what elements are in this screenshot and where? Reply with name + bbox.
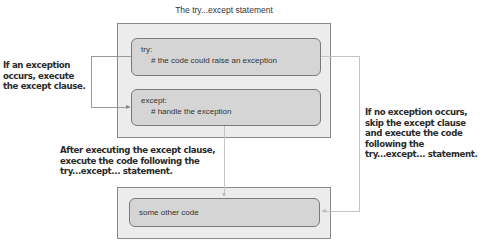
except-keyword: except: — [141, 96, 167, 106]
other-code-text: some other code — [139, 208, 199, 218]
no-exception-line-bottom — [325, 211, 360, 212]
after-except-arrow-icon — [222, 193, 226, 197]
exception-path-arrow-icon — [126, 105, 131, 109]
except-comment: # handle the exception — [151, 107, 232, 117]
other-code-block: some other code — [129, 198, 320, 227]
note-exception-occurs: If an exception occurs, execute the exce… — [3, 60, 85, 92]
try-comment: # the code could raise an exception — [151, 56, 277, 66]
note-no-exception: If no exception occurs, skip the except … — [365, 107, 477, 160]
exception-path-line-bottom — [91, 107, 127, 108]
try-block: try: # the code could raise an exception — [131, 38, 321, 76]
note-after-except: After executing the except clause, execu… — [60, 145, 215, 177]
exception-path-line-top — [91, 56, 131, 57]
after-except-line — [224, 126, 225, 196]
try-keyword: try: — [141, 45, 152, 55]
exception-path-line-vertical — [91, 56, 92, 108]
diagram-title: The try...except statement — [117, 5, 331, 15]
no-exception-arrow-icon — [321, 209, 326, 213]
no-exception-line-top — [321, 56, 359, 57]
no-exception-line-vertical — [359, 56, 360, 212]
except-block: except: # handle the exception — [131, 89, 321, 126]
